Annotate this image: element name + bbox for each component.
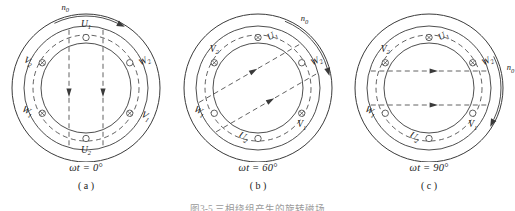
phase-label-a: ωt = 0°: [0, 162, 172, 173]
panel-letter-a: ( a ): [0, 180, 172, 191]
diagram-panel-b: U1W2V1U2W1V2n0 ωt = 60° ( b ): [172, 0, 344, 211]
conductor-label-U2: U2: [81, 145, 92, 156]
conductor-U1: [83, 34, 89, 40]
conductor-U2: [255, 135, 261, 141]
conductor-V2: [382, 60, 388, 66]
phase-label-c: ωt = 90°: [343, 162, 515, 173]
field-arrows: [66, 30, 105, 146]
diagram-panel-a: U1W2V1U2W1V2n0 ωt = 0° ( a ): [0, 0, 172, 211]
conductor-U2: [83, 135, 89, 141]
slot-circle: [33, 35, 139, 141]
conductor-W1: [382, 110, 388, 116]
conductor-circle: [470, 110, 476, 116]
slot-circle: [376, 35, 482, 141]
conductor-V2: [211, 60, 217, 66]
rotor-bore-circle: [213, 43, 303, 133]
rotor-bore-circle: [384, 43, 474, 133]
conductor-V1: [470, 110, 476, 116]
conductor-circle: [211, 110, 217, 116]
conductor-circle: [83, 135, 89, 141]
phase-label-b: ωt = 60°: [172, 162, 344, 173]
conductor-label-W1: W1: [20, 104, 35, 119]
conductor-U1: [426, 34, 432, 40]
stator-diagram-a: U1W2V1U2W1V2n0: [0, 0, 172, 162]
conductor-circle: [426, 135, 432, 141]
conductor-circle: [127, 60, 133, 66]
conductor-circle: [83, 34, 89, 40]
stator-inner-circle: [24, 26, 148, 150]
conductor-W2: [299, 60, 305, 66]
conductor-label-U1: U1: [265, 29, 279, 44]
figure-rotating-magnetic-field: U1W2V1U2W1V2n0 ωt = 0° ( a ) U1W2V1U2W1V…: [0, 0, 515, 211]
conductor-V1: [299, 110, 305, 116]
conductor-circle: [382, 110, 388, 116]
rotation-speed-label: n0: [301, 13, 309, 24]
conductor-V2: [39, 60, 45, 66]
field-arrowhead: [430, 68, 438, 73]
rotation-speed-label: n0: [62, 2, 70, 13]
conductor-label-W1: W1: [363, 104, 378, 119]
conductor-circle: [299, 60, 305, 66]
stator-diagram-b: U1W2V1U2W1V2n0: [172, 0, 344, 162]
conductor-label-V2: V2: [22, 54, 36, 69]
conductor-V1: [127, 110, 133, 116]
conductor-W2: [127, 60, 133, 66]
field-arrowhead: [100, 89, 105, 97]
panel-letter-b: ( b ): [172, 180, 344, 191]
conductor-label-U1: U1: [81, 19, 91, 30]
field-arrowhead: [249, 69, 258, 75]
rotation-arrowhead: [324, 67, 330, 76]
conductor-label-V1: V1: [139, 109, 152, 123]
conductor-label-W2: W2: [480, 53, 496, 69]
conductor-label-V2: V2: [210, 44, 220, 55]
slot-circle: [205, 35, 311, 141]
rotation-speed-label: n0: [507, 62, 515, 73]
diagram-panel-c: U1W2V1U2W1V2n0 ωt = 90° ( c ): [343, 0, 515, 211]
field-arrowhead: [266, 98, 275, 104]
field-arrowhead: [66, 89, 71, 97]
rotor-bore-circle: [41, 43, 131, 133]
conductor-U1: [255, 34, 261, 40]
conductor-label-V1: V1: [297, 119, 306, 130]
conductor-label-U1: U1: [436, 29, 450, 44]
conductor-circle: [255, 135, 261, 141]
conductor-label-V1: V1: [468, 119, 477, 130]
field-arrows: [371, 68, 487, 107]
figure-caption: 图3-5 三相绕组产生的旋转磁场: [0, 201, 515, 211]
conductor-W1: [211, 110, 217, 116]
conductor-W2: [470, 60, 476, 66]
field-arrowhead: [430, 102, 438, 107]
panel-letter-c: ( c ): [343, 180, 515, 191]
stator-diagram-c: U1W2V1U2W1V2n0: [343, 0, 515, 162]
conductor-U2: [426, 135, 432, 141]
conductor-label-V2: V2: [381, 44, 391, 55]
conductor-W1: [39, 110, 45, 116]
conductor-label-W1: W1: [192, 104, 207, 119]
conductor-label-W2: W2: [137, 53, 153, 69]
